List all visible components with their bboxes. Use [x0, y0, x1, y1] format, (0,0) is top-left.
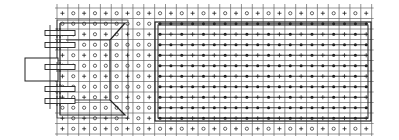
circle-marker: [61, 106, 64, 109]
circle-marker: [93, 75, 96, 78]
circle-marker: [354, 12, 357, 15]
circle-marker: [137, 43, 140, 46]
circle-marker: [93, 54, 96, 57]
circle-marker: [354, 127, 357, 130]
circle-marker: [93, 12, 96, 15]
circle-marker: [83, 106, 86, 109]
circle-marker: [83, 85, 86, 88]
circle-marker: [126, 64, 129, 67]
circle-marker: [224, 12, 227, 15]
circle-marker: [93, 43, 96, 46]
circle-marker: [224, 127, 227, 130]
circle-marker: [115, 85, 118, 88]
circle-marker: [137, 12, 140, 15]
circle-marker: [72, 75, 75, 78]
circle-marker: [104, 106, 107, 109]
circle-marker: [148, 43, 151, 46]
circle-marker: [245, 12, 248, 15]
circle-marker: [202, 12, 205, 15]
circle-marker: [310, 127, 313, 130]
circle-marker: [93, 85, 96, 88]
circle-marker: [158, 127, 161, 130]
circle-marker: [148, 85, 151, 88]
circle-marker: [202, 127, 205, 130]
grid-layout-diagram: [0, 0, 399, 140]
circle-marker: [126, 22, 129, 25]
circle-marker: [72, 127, 75, 130]
circle-marker: [72, 106, 75, 109]
circle-marker: [126, 106, 129, 109]
circle-marker: [115, 75, 118, 78]
circle-marker: [83, 43, 86, 46]
circle-marker: [137, 127, 140, 130]
circle-marker: [83, 64, 86, 67]
circle-marker: [332, 127, 335, 130]
circle-marker: [158, 12, 161, 15]
circle-marker: [104, 43, 107, 46]
circle-marker: [180, 12, 183, 15]
circle-marker: [93, 127, 96, 130]
circle-marker: [104, 64, 107, 67]
circle-marker: [137, 22, 140, 25]
circle-marker: [289, 12, 292, 15]
circle-marker: [93, 64, 96, 67]
circle-marker: [104, 85, 107, 88]
circle-marker: [72, 12, 75, 15]
circle-marker: [72, 54, 75, 57]
circle-marker: [267, 12, 270, 15]
circle-marker: [137, 54, 140, 57]
circle-marker: [137, 33, 140, 36]
circle-marker: [137, 117, 140, 120]
circle-marker: [180, 127, 183, 130]
circle-marker: [310, 12, 313, 15]
circle-marker: [115, 43, 118, 46]
circle-marker: [148, 106, 151, 109]
circle-marker: [148, 22, 151, 25]
circle-marker: [126, 43, 129, 46]
circle-marker: [137, 85, 140, 88]
circle-marker: [137, 64, 140, 67]
circle-marker: [148, 64, 151, 67]
circle-marker: [115, 12, 118, 15]
circle-marker: [332, 12, 335, 15]
circle-marker: [115, 96, 118, 99]
circle-marker: [115, 64, 118, 67]
circle-marker: [137, 96, 140, 99]
circle-marker: [126, 85, 129, 88]
circle-marker: [289, 127, 292, 130]
circle-marker: [115, 54, 118, 57]
circle-marker: [137, 106, 140, 109]
circle-marker: [93, 33, 96, 36]
circle-marker: [267, 127, 270, 130]
circle-marker: [93, 96, 96, 99]
circle-marker: [245, 127, 248, 130]
circle-marker: [137, 75, 140, 78]
circle-marker: [115, 127, 118, 130]
circle-marker: [93, 106, 96, 109]
diagram-canvas: [0, 0, 399, 140]
